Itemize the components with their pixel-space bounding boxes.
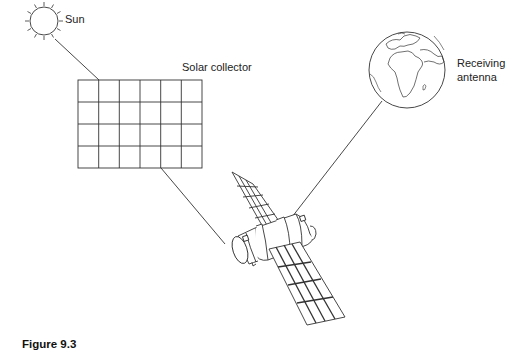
receiving-antenna-label-line2: antenna xyxy=(457,71,497,84)
sun-label: Sun xyxy=(65,13,85,26)
satellite-icon xyxy=(229,172,345,325)
receiving-antenna-label-line1: Receiving xyxy=(457,57,505,70)
solar-collector-grid xyxy=(78,80,202,168)
satellite-to-earth-line xyxy=(292,101,382,217)
sun-icon xyxy=(25,2,63,40)
figure-caption: Figure 9.3 xyxy=(22,338,76,350)
collector-to-satellite-line xyxy=(161,168,225,244)
solar-collector-label: Solar collector xyxy=(182,61,252,74)
sun-to-collector-line xyxy=(55,39,99,80)
globe-icon xyxy=(369,32,445,108)
satellite-upper-panel xyxy=(232,172,281,229)
satellite-lower-panel xyxy=(269,242,345,325)
